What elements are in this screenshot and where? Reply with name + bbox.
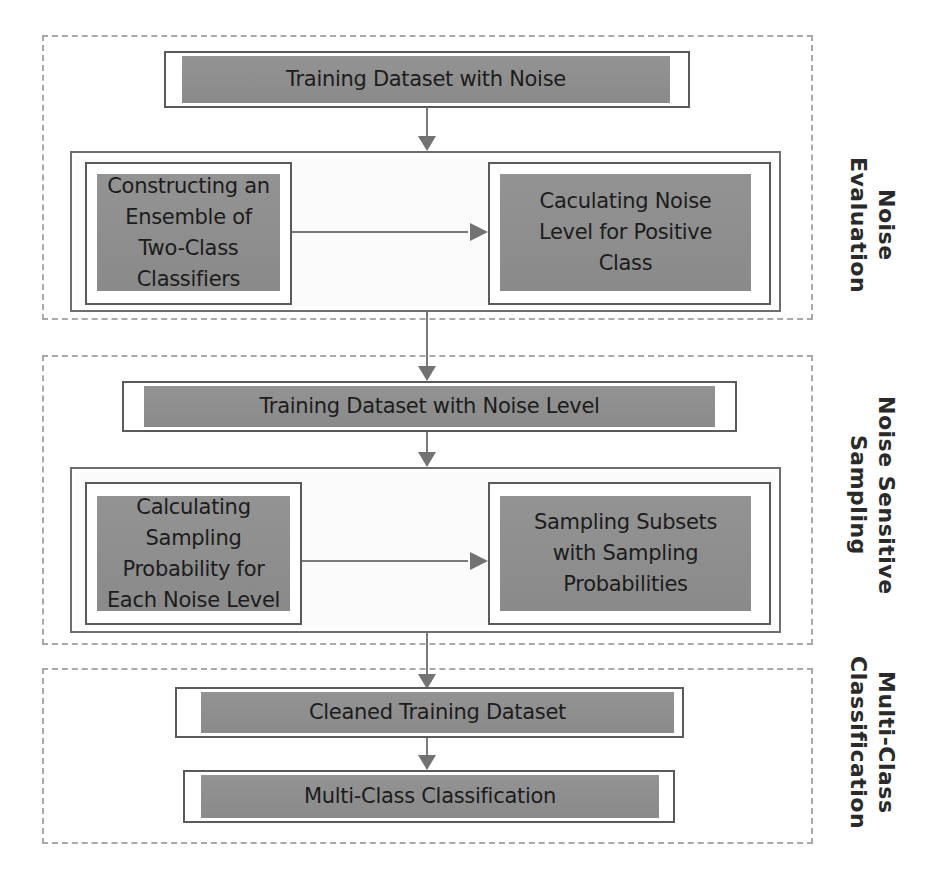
node-label: Sampling Subsets with Sampling Probabili… [512, 507, 739, 600]
section-label-line: Multi-Class [874, 671, 899, 814]
node-training-dataset-with-noise: Training Dataset with Noise [164, 51, 690, 108]
node-calculating-noise-level: Caculating Noise Level for Positive Clas… [488, 162, 771, 305]
section-label-line: Sampling [846, 435, 871, 555]
arrow-right-icon [470, 552, 488, 570]
section-label-noise-evaluation: Noise Evaluation [836, 150, 900, 300]
section-label-line: Evaluation [846, 157, 871, 293]
node-calculating-sampling-probability: Calculating Sampling Probability for Eac… [85, 482, 302, 625]
node-label: Training Dataset with Noise Level [259, 391, 599, 422]
arrow-down-icon [418, 452, 436, 467]
node-label: Calculating Sampling Probability for Eac… [101, 492, 286, 616]
connector [292, 231, 468, 233]
node-label: Training Dataset with Noise [286, 64, 566, 95]
node-label: Caculating Noise Level for Positive Clas… [510, 186, 741, 279]
connector [426, 108, 428, 138]
section-label-line: Classification [846, 656, 871, 829]
node-label: Multi-Class Classification [304, 781, 556, 812]
section-label-noise-sensitive-sampling: Noise Sensitive Sampling [836, 395, 900, 595]
node-label: Constructing an Ensemble of Two-Class Cl… [103, 171, 274, 295]
node-cleaned-training-dataset: Cleaned Training Dataset [175, 687, 684, 738]
connector [302, 560, 468, 562]
section-label-line: Noise [874, 189, 899, 261]
node-sampling-subsets: Sampling Subsets with Sampling Probabili… [488, 482, 771, 625]
node-constructing-ensemble: Constructing an Ensemble of Two-Class Cl… [85, 162, 292, 305]
node-training-dataset-with-noise-level: Training Dataset with Noise Level [122, 381, 737, 432]
section-label-line: Noise Sensitive [874, 396, 899, 595]
section-label-multi-class-classification: Multi-Class Classification [836, 655, 900, 830]
node-label: Cleaned Training Dataset [309, 697, 566, 728]
arrow-down-icon [418, 136, 436, 151]
arrow-right-icon [470, 223, 488, 241]
connector [426, 738, 428, 756]
arrow-down-icon [418, 755, 436, 770]
node-multi-class-classification: Multi-Class Classification [183, 770, 675, 823]
